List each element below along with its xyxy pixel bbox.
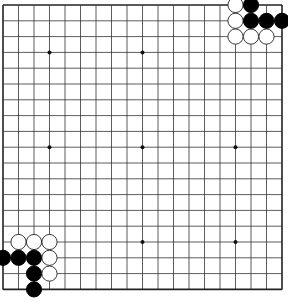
white-stone[interactable] <box>228 0 243 13</box>
black-stone[interactable] <box>11 250 26 265</box>
black-stone[interactable] <box>26 282 41 297</box>
star-point <box>234 145 238 149</box>
black-stone[interactable] <box>243 13 258 28</box>
star-point <box>141 240 145 244</box>
black-stone[interactable] <box>243 0 258 13</box>
black-stone[interactable] <box>26 250 41 265</box>
black-stone[interactable] <box>259 13 274 28</box>
star-point <box>48 50 52 54</box>
go-board[interactable] <box>0 0 288 302</box>
white-stone[interactable] <box>243 29 258 44</box>
white-stone[interactable] <box>42 266 57 281</box>
star-point <box>48 145 52 149</box>
white-stone[interactable] <box>42 250 57 265</box>
black-stone[interactable] <box>26 266 41 281</box>
white-stone[interactable] <box>228 13 243 28</box>
white-stone[interactable] <box>42 234 57 249</box>
white-stone[interactable] <box>228 29 243 44</box>
black-stone[interactable] <box>0 250 11 265</box>
star-point <box>141 50 145 54</box>
black-stone[interactable] <box>274 13 288 28</box>
white-stone[interactable] <box>11 234 26 249</box>
white-stone[interactable] <box>259 29 274 44</box>
star-point <box>141 145 145 149</box>
star-point <box>234 240 238 244</box>
white-stone[interactable] <box>26 234 41 249</box>
